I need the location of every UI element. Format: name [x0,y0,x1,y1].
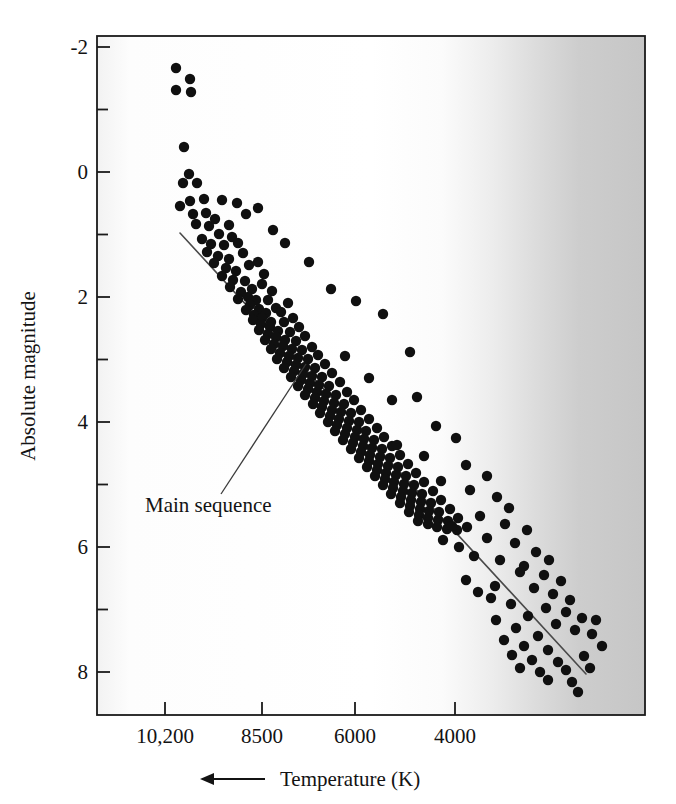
star-point [320,359,330,369]
star-point [486,593,496,603]
star-point [587,629,597,639]
star-point [224,254,234,264]
star-point [209,258,219,268]
star-point [214,229,224,239]
star-point [323,417,333,427]
star-point [263,295,273,305]
star-point [364,373,374,383]
star-point [543,675,553,685]
star-point [432,522,442,532]
star-point [378,309,388,319]
star-point [175,201,185,211]
star-point [349,395,359,405]
star-point [570,625,580,635]
y-tick-label-5: 8 [78,660,89,684]
star-point [372,423,382,433]
x-tick-label-3: 4000 [434,724,476,748]
x-tick-label-1: 8500 [241,724,283,748]
star-point [294,322,304,332]
x-tick-label-2: 6000 [334,724,376,748]
star-point [326,284,336,294]
star-point [370,471,380,481]
y-tick-label-0: -2 [71,35,89,59]
star-point [276,307,286,317]
star-point [253,257,263,267]
star-point [272,354,282,364]
star-point [482,533,492,543]
star-point [315,408,325,418]
star-point [288,313,298,323]
star-point [184,169,194,179]
star-point [188,209,198,219]
star-point [529,583,539,593]
star-point [330,426,340,436]
star-point [462,522,472,532]
star-point [482,471,492,481]
star-point [232,198,242,208]
star-point [210,214,220,224]
star-point [342,387,352,397]
star-point [268,225,278,235]
star-point [179,142,189,152]
star-point [260,335,270,345]
star-point [431,421,441,431]
star-point [597,641,607,651]
star-point [241,209,251,219]
star-point [500,519,510,529]
star-point [224,220,234,230]
star-point [387,395,397,405]
star-point [254,325,264,335]
star-point [253,203,263,213]
y-tick-label-1: 0 [78,160,89,184]
star-point [565,595,575,605]
star-point [561,607,571,617]
star-point [544,555,554,565]
star-point [447,521,457,531]
y-axis-title: Absolute magnitude [16,291,40,461]
star-point [573,687,583,697]
star-point [419,477,429,487]
star-point [411,468,421,478]
star-point [577,613,587,623]
star-point [279,317,289,327]
star-point [354,453,364,463]
star-point [335,377,345,387]
star-point [364,414,374,424]
star-point [304,257,314,267]
star-point [591,615,601,625]
star-point [283,298,293,308]
star-point [378,480,388,490]
star-point [404,507,414,517]
star-point [491,615,501,625]
star-point [192,178,202,188]
star-point [257,279,267,289]
star-point [539,570,549,580]
x-axis-title: Temperature (K) [280,767,420,791]
hr-diagram-figure: -2 0 2 4 6 8 Absolute magnitude 10,200 8… [0,0,676,804]
star-point [561,665,571,675]
star-point [533,631,543,641]
star-point [362,462,372,472]
star-point [171,63,181,73]
star-point [392,440,402,450]
star-point [585,663,595,673]
star-point [465,485,475,495]
x-tick-label-0: 10,200 [136,724,194,748]
star-point [438,535,448,545]
star-point [197,234,207,244]
star-point [507,650,517,660]
left-arrow-icon [200,773,265,785]
star-point [454,542,464,552]
star-point [527,655,537,665]
star-point [511,623,521,633]
star-point [267,286,277,296]
star-point [313,350,323,360]
star-point [419,451,429,461]
star-point [504,503,514,513]
star-point [469,551,479,561]
star-point [531,547,541,557]
star-point [510,538,520,548]
star-point [519,641,529,651]
star-point [395,498,405,508]
star-point [492,492,502,502]
